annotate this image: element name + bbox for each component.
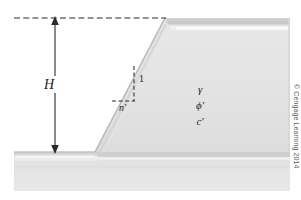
unit-weight-label: γ — [196, 82, 204, 98]
soil-embankment — [95, 18, 290, 152]
soil-parameters-group: γ ϕ′ c′ — [196, 82, 204, 130]
slope-horizontal-label: n′ — [119, 103, 126, 113]
slope-diagram-canvas — [0, 0, 301, 200]
friction-angle-label: ϕ′ — [196, 98, 204, 114]
toe-bench — [14, 152, 101, 162]
slope-diagram-figure: H 1 n′ γ ϕ′ c′ © Cengage Learning 2014 — [0, 0, 301, 200]
cohesion-label: c′ — [196, 114, 204, 130]
slope-vertical-label: 1 — [139, 74, 144, 84]
copyright-credit: © Cengage Learning 2014 — [293, 84, 300, 188]
height-label: H — [44, 78, 54, 92]
